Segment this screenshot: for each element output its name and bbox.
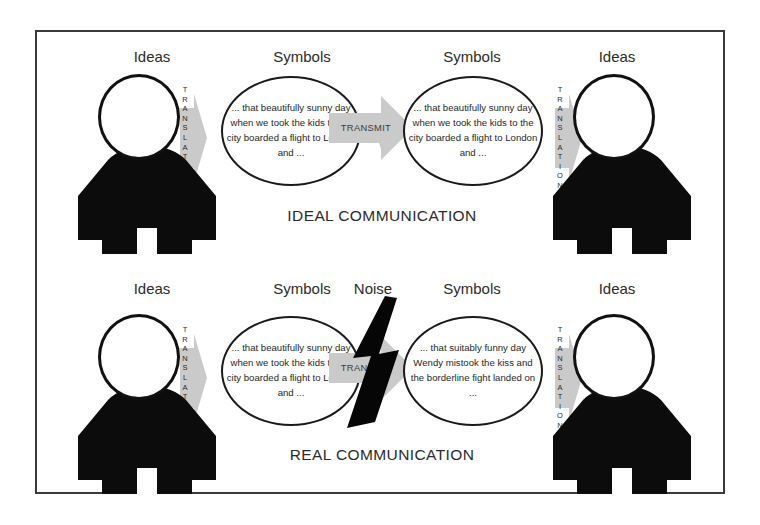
- receiver-person: ?: [547, 314, 697, 494]
- label-sender-symbols: Symbols: [222, 48, 382, 65]
- label-receiver-symbols: Symbols: [392, 280, 552, 297]
- label-receiver-symbols: Symbols: [392, 48, 552, 65]
- label-receiver-ideas: Ideas: [557, 280, 677, 297]
- caption-ideal-communication: IDEAL COMMUNICATION: [262, 207, 502, 225]
- transmit-arrow-label: TRANSMIT: [329, 122, 403, 133]
- caption-real-communication: REAL COMMUNICATION: [262, 446, 502, 464]
- transmit-arrow: TRANSMIT: [329, 94, 413, 166]
- label-sender-ideas: Ideas: [92, 280, 212, 297]
- receiver-speech-bubble-text: ... that beautifully sunny day when we t…: [406, 101, 540, 160]
- receiver-speech-bubble: ... that suitably funny day Wendy mistoo…: [403, 316, 543, 426]
- row-ideal-communication: Ideas Symbols Symbols Ideas: [37, 32, 723, 264]
- receiver-person: [547, 74, 697, 254]
- receiver-head: [573, 74, 655, 160]
- receiver-head: [573, 314, 655, 400]
- row-real-communication: Ideas Symbols Noise Symbols Ideas: [37, 264, 723, 496]
- lightning-bolt-icon: [345, 296, 407, 428]
- sender-head: [98, 74, 180, 160]
- label-receiver-ideas: Ideas: [557, 48, 677, 65]
- receiver-speech-bubble: ... that beautifully sunny day when we t…: [403, 76, 543, 186]
- sender-head: [98, 314, 180, 400]
- receiver-speech-bubble-text: ... that suitably funny day Wendy mistoo…: [406, 341, 540, 400]
- label-sender-ideas: Ideas: [92, 48, 212, 65]
- diagram-frame: Ideas Symbols Symbols Ideas: [35, 30, 725, 494]
